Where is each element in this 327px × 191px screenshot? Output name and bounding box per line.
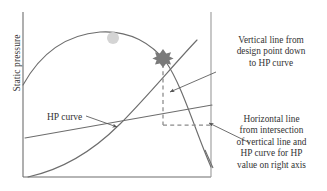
horizontal-line-annotation: Horizontal line from intersection of ver… — [218, 114, 325, 171]
static-pressure-curve — [23, 32, 211, 167]
rising-system-curve — [28, 40, 197, 177]
figure-container: Static pressure HP curve Vertical line f… — [0, 0, 327, 191]
curve-tail-tick — [205, 150, 213, 168]
hp-curve-callout-arrow — [86, 116, 117, 127]
design-point-marker — [152, 49, 173, 68]
y-axis-label: Static pressure — [12, 8, 22, 118]
peak-point-marker — [107, 32, 119, 44]
hp-curve-label: HP curve — [47, 112, 82, 122]
vertical-line-annotation: Vertical line from design point down to … — [218, 35, 324, 69]
